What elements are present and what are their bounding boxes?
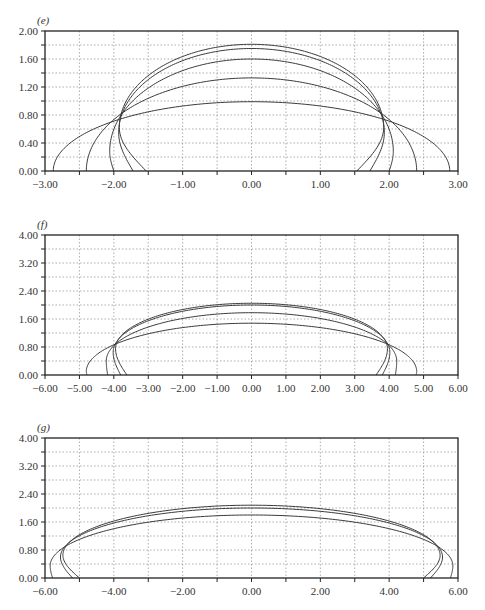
y-tick-label: 0.00 [19,369,39,381]
chart-panel-e: (e)−3.00−2.00−1.000.001.002.003.000.000.… [0,0,485,200]
y-tick-label: 1.60 [19,516,39,528]
x-tick-label: −1.00 [204,382,230,394]
x-tick-label: −4.00 [101,382,127,394]
chart-e: (e)−3.00−2.00−1.000.001.002.003.000.000.… [0,0,485,200]
curves [86,303,416,375]
y-tick-label: 0.80 [19,341,39,353]
grid-lines [45,31,458,171]
panel-label: (e) [37,14,50,27]
y-axis: 0.000.801.602.403.204.00 [19,432,45,584]
x-tick-label: 3.00 [448,178,468,190]
y-tick-label: 0.80 [19,109,39,121]
x-tick-label: 2.00 [380,178,400,190]
x-axis: −3.00−2.00−1.000.001.002.003.00 [32,171,468,190]
x-tick-label: −5.00 [67,382,93,394]
x-tick-label: 6.00 [448,382,468,394]
y-tick-label: 2.40 [19,488,39,500]
x-tick-label: 3.00 [345,382,365,394]
x-tick-label: 0.00 [242,178,262,190]
x-tick-label: −2.00 [101,178,127,190]
panel-label: (g) [37,421,50,434]
y-tick-label: 0.40 [19,137,39,149]
x-tick-label: 5.00 [414,382,434,394]
chart-f: (f)−6.00−5.00−4.00−3.00−2.00−1.000.001.0… [0,200,485,400]
x-tick-label: −3.00 [32,178,58,190]
x-tick-label: 0.00 [242,585,262,597]
x-tick-label: 0.00 [242,382,262,394]
y-tick-label: 3.20 [19,257,39,269]
x-tick-label: −4.00 [101,585,127,597]
y-axis: 0.000.400.801.201.602.00 [19,25,45,177]
x-tick-label: −6.00 [32,382,58,394]
panel-label: (f) [37,218,48,231]
y-tick-label: 0.00 [19,572,39,584]
y-tick-label: 1.60 [19,53,39,65]
x-tick-label: −2.00 [170,382,196,394]
x-tick-label: 4.00 [380,382,400,394]
y-tick-label: 1.60 [19,313,39,325]
y-tick-label: 4.00 [19,432,39,444]
x-tick-label: 4.00 [380,585,400,597]
y-tick-label: 0.80 [19,544,39,556]
x-tick-label: 2.00 [311,585,331,597]
y-tick-label: 2.00 [19,25,39,37]
x-tick-label: −2.00 [170,585,196,597]
x-tick-label: −6.00 [32,585,58,597]
curve-curve-4 [116,303,388,375]
x-tick-label: 1.00 [276,382,296,394]
chart-panel-f: (f)−6.00−5.00−4.00−3.00−2.00−1.000.001.0… [0,200,485,400]
y-tick-label: 0.00 [19,165,39,177]
y-tick-label: 2.40 [19,285,39,297]
x-tick-label: 6.00 [448,585,468,597]
y-tick-label: 3.20 [19,460,39,472]
chart-g: (g)−6.00−4.00−2.000.002.004.006.000.000.… [0,400,485,610]
x-tick-label: 1.00 [311,178,331,190]
x-tick-label: 2.00 [311,382,331,394]
x-axis: −6.00−5.00−4.00−3.00−2.00−1.000.001.002.… [32,375,468,394]
x-tick-label: −1.00 [170,178,196,190]
y-tick-label: 4.00 [19,229,39,241]
y-tick-label: 1.20 [19,81,39,93]
chart-panel-g: (g)−6.00−4.00−2.000.002.004.006.000.000.… [0,400,485,610]
y-axis: 0.000.801.602.403.204.00 [19,229,45,381]
x-tick-label: −3.00 [136,382,162,394]
x-axis: −6.00−4.00−2.000.002.004.006.00 [32,578,468,597]
